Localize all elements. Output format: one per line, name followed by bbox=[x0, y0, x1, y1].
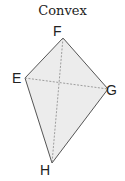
vertex-label-g: G bbox=[106, 82, 117, 98]
vertex-label-e: E bbox=[12, 70, 21, 86]
vertex-label-h: H bbox=[40, 162, 50, 178]
quadrilateral-shape bbox=[25, 38, 108, 163]
quadrilateral-diagram: F G H E bbox=[0, 0, 125, 181]
vertex-label-f: F bbox=[53, 23, 62, 39]
